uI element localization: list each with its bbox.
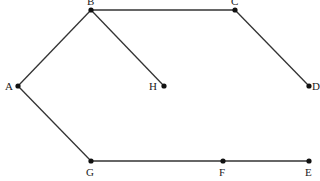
node-label-g: G [86, 166, 94, 178]
node-g [88, 158, 93, 163]
node-label-d: D [312, 80, 320, 92]
edge-a-b [18, 10, 91, 86]
node-d [306, 83, 311, 88]
node-label-b: B [87, 0, 94, 7]
edge-a-g [18, 86, 91, 161]
edge-b-h [91, 10, 164, 86]
node-label-c: C [231, 0, 238, 7]
graph-diagram: ABCDEFGH [0, 0, 320, 181]
node-c [232, 7, 237, 12]
node-label-a: A [5, 80, 13, 92]
nodes [15, 7, 311, 163]
node-a [15, 83, 20, 88]
node-label-e: E [305, 166, 312, 178]
node-h [161, 83, 166, 88]
labels: ABCDEFGH [5, 0, 320, 178]
edge-c-d [235, 10, 309, 86]
node-b [88, 7, 93, 12]
node-label-h: H [149, 80, 157, 92]
node-label-f: F [219, 166, 225, 178]
node-e [306, 158, 311, 163]
node-f [220, 158, 225, 163]
